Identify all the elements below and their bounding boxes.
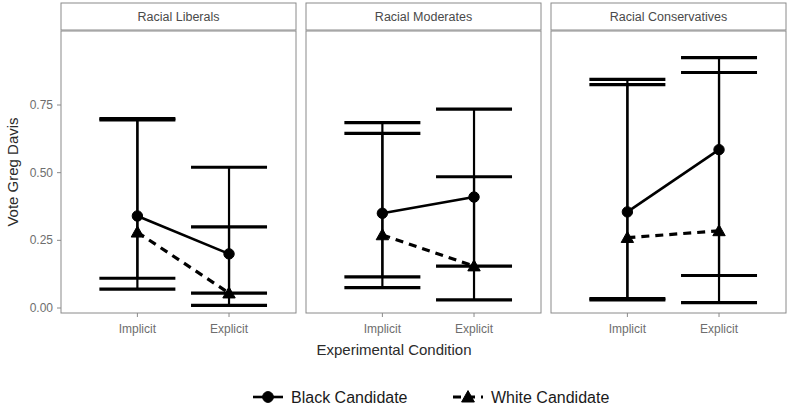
y-axis-tick-label: 0.50	[30, 166, 54, 180]
x-axis-tick-label: Explicit	[210, 322, 249, 336]
x-axis-tick-label: Explicit	[455, 322, 494, 336]
panel-background	[306, 31, 541, 313]
data-point-circle-marker	[224, 249, 234, 259]
legend-item-label: Black Candidate	[291, 389, 408, 406]
facet-panel: Racial LiberalsImplicitExplicit	[61, 3, 296, 336]
y-axis-tick-label: 0.75	[30, 98, 54, 112]
x-axis-tick-label: Explicit	[700, 322, 739, 336]
legend-circle-marker	[263, 392, 274, 403]
facet-panel: Racial ModeratesImplicitExplicit	[306, 3, 541, 336]
data-point-circle-marker	[622, 207, 632, 217]
y-axis-title: Vote Greg Davis	[4, 117, 21, 226]
facet-strip-label: Racial Liberals	[138, 10, 220, 24]
faceted-line-chart: 0.000.250.500.75Vote Greg DavisRacial Li…	[0, 0, 788, 418]
chart-canvas: 0.000.250.500.75Vote Greg DavisRacial Li…	[0, 0, 788, 418]
facet-strip-label: Racial Conservatives	[610, 10, 727, 24]
x-axis-title: Experimental Condition	[316, 341, 471, 358]
x-axis-tick-label: Implicit	[609, 322, 647, 336]
data-point-circle-marker	[132, 211, 142, 221]
x-axis-tick-label: Implicit	[364, 322, 402, 336]
facet-panel: Racial ConservativesImplicitExplicit	[551, 3, 786, 336]
panel-background	[61, 31, 296, 313]
y-axis-tick-label: 0.00	[30, 301, 54, 315]
facet-strip-label: Racial Moderates	[375, 10, 472, 24]
data-point-circle-marker	[377, 208, 387, 218]
x-axis-tick-label: Implicit	[119, 322, 157, 336]
legend-item: White Candidate	[453, 389, 609, 406]
legend-item-label: White Candidate	[491, 389, 609, 406]
y-axis-tick-label: 0.25	[30, 233, 54, 247]
data-point-circle-marker	[714, 144, 724, 154]
legend-item: Black Candidate	[253, 389, 408, 406]
data-point-circle-marker	[469, 192, 479, 202]
legend: Black CandidateWhite Candidate	[253, 389, 609, 406]
